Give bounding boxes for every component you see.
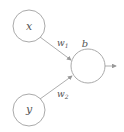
node-x-label: x: [26, 20, 33, 33]
node-output: [71, 49, 105, 83]
weight-2-label: w2: [57, 89, 69, 100]
weight-1-label: w1: [57, 38, 69, 49]
perceptron-diagram: x y b w1 w2: [0, 0, 124, 132]
bias-label: b: [82, 38, 88, 49]
node-y-label: y: [25, 103, 33, 116]
